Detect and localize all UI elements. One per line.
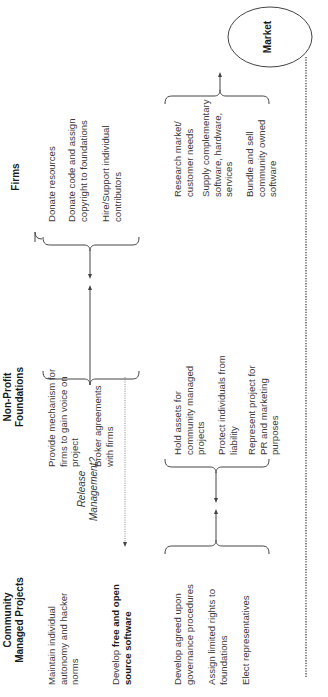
firms-top-brace (35, 232, 42, 242)
diagram-canvas: Community Managed Projects Non-Profit Fo… (0, 0, 328, 697)
header-firms: Firms (10, 147, 22, 207)
firms-bottom-item-2: Supply complementary software, hardware,… (200, 97, 235, 197)
nonprofit-bottom-item-3: Represent project for PR and marketing p… (246, 355, 281, 455)
header-nonprofit-line1: Non-Profit (2, 347, 14, 447)
header-nonprofit-line2: Foundations (14, 347, 26, 447)
firms-top-item-2: Donate code and assign copyright to foun… (66, 107, 89, 222)
firms-top-item-1: Donate resources (46, 107, 58, 222)
community-bottom-item-2: Assign limited rights to foundations (206, 575, 229, 685)
develop-prefix: Develop (110, 647, 121, 685)
firms-top-item-3: Hire/Support individual contributors (100, 107, 123, 222)
nonprofit-bottom-item-1: Hold assets for community managed projec… (172, 355, 207, 455)
header-nonprofit: Non-Profit Foundations (2, 347, 26, 447)
header-community-line2: Managed Projects (14, 565, 26, 675)
community-top-item-1: Maintain individual autonomy and hacker … (46, 570, 81, 685)
nonprofit-top-item-1: Provide mechanism for firms to gain voic… (46, 357, 81, 467)
community-bottom-item-3: Elect representatives (240, 555, 252, 685)
community-develop-text: Develop free and open source software (110, 560, 133, 685)
market-label: Market (262, 15, 273, 59)
nonprofit-bottom-item-2: Protect individuals from liability (216, 355, 239, 455)
community-bottom-item-1: Develop agreed upon governance procedure… (172, 553, 195, 685)
header-community-line1: Community (2, 565, 14, 675)
firms-bottom-item-1: Research market/ customer needs (172, 102, 195, 197)
nonprofit-top-item-2: Broker agreements with firms (92, 377, 115, 467)
header-community: Community Managed Projects (2, 565, 26, 675)
header-firms-line1: Firms (10, 147, 22, 207)
firms-bottom-item-3: Bundle and sell community owned software (244, 97, 279, 197)
